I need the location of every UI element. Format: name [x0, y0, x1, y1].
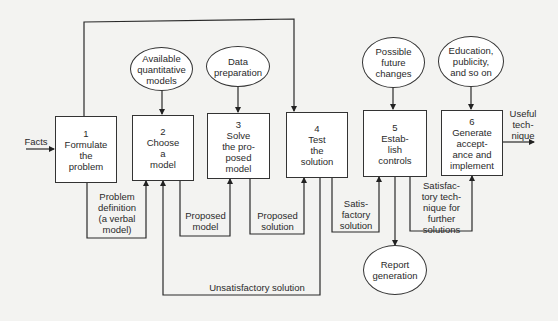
- report-generation-label: Report generation: [373, 259, 418, 281]
- step-6-label: 6 Generate accept- ance and implement: [450, 116, 494, 171]
- education-publicity-label: Education, publicity, and so on: [449, 45, 494, 78]
- unsatisfactory-solution-label: Unsatisfactory solution: [196, 282, 318, 293]
- step-5-label: 5 Estab- lish controls: [378, 122, 411, 166]
- step-3-solve-model[interactable]: 3 Solve the pro- posed model: [207, 113, 270, 179]
- oval-data-preparation[interactable]: Data preparation: [206, 46, 270, 87]
- step-3-label: 3 Solve the pro- posed model: [222, 119, 255, 174]
- satisfactory-technique-label: Satisfac- tory tech- nique for further s…: [411, 180, 472, 235]
- step-1-label: 1 Formulate the problem: [65, 128, 108, 172]
- possible-changes-label: Possible future changes: [376, 46, 412, 79]
- oval-education-publicity[interactable]: Education, publicity, and so on: [438, 36, 504, 87]
- problem-definition-label: Problem definition (a verbal model): [88, 191, 146, 235]
- facts-label: Facts: [24, 136, 48, 147]
- oval-report-generation[interactable]: Report generation: [363, 245, 427, 295]
- step-4-label: 4 Test the solution: [301, 123, 334, 167]
- proposed-solution-label: Proposed solution: [251, 210, 304, 232]
- step-4-test-solution[interactable]: 4 Test the solution: [286, 112, 348, 178]
- data-preparation-label: Data preparation: [214, 56, 262, 78]
- oval-available-models[interactable]: Available quantitative models: [130, 47, 193, 91]
- step-1-formulate-problem[interactable]: 1 Formulate the problem: [55, 116, 117, 183]
- useful-technique-label: Useful tech- nique: [506, 108, 540, 141]
- step-2-label: 2 Choose a model: [147, 126, 180, 170]
- oval-possible-changes[interactable]: Possible future changes: [362, 37, 425, 88]
- available-models-label: Available quantitative models: [137, 53, 186, 86]
- satisfactory-solution-label: Satis- factory solution: [333, 198, 379, 231]
- step-5-establish-controls[interactable]: 5 Estab- lish controls: [363, 110, 427, 177]
- proposed-model-label: Proposed model: [181, 210, 230, 232]
- step-6-generate-acceptance[interactable]: 6 Generate accept- ance and implement: [441, 110, 503, 176]
- step-2-choose-model[interactable]: 2 Choose a model: [132, 115, 194, 181]
